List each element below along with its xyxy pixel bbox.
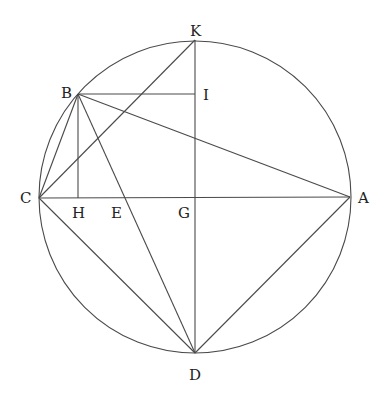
point-label-G: G xyxy=(178,204,190,222)
segment-CB xyxy=(39,94,78,198)
segment-AD xyxy=(195,197,350,353)
segment-CK xyxy=(39,40,195,198)
point-label-D: D xyxy=(189,366,201,384)
line-segments xyxy=(39,40,350,353)
point-label-A: A xyxy=(357,189,369,207)
geometry-diagram: KBICHEGAD xyxy=(0,0,389,397)
point-label-E: E xyxy=(111,204,122,222)
point-label-I: I xyxy=(203,86,209,104)
point-label-C: C xyxy=(20,189,31,207)
segment-BD xyxy=(78,94,195,353)
segment-BA xyxy=(78,94,350,197)
point-label-K: K xyxy=(190,22,202,40)
point-label-B: B xyxy=(61,84,72,102)
point-label-H: H xyxy=(72,204,85,222)
